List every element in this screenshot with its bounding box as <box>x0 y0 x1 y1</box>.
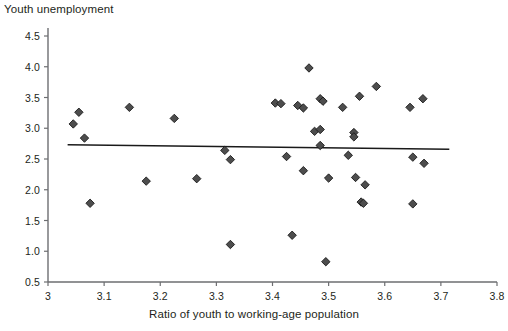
data-point <box>406 103 414 111</box>
trend-line <box>68 145 450 149</box>
scatter-plot-canvas <box>0 0 508 331</box>
x-tick-label: 3.7 <box>421 290 461 302</box>
y-tick-label: 1.0 <box>12 245 40 257</box>
x-tick-label: 3.4 <box>253 290 293 302</box>
data-point <box>372 82 380 90</box>
y-tick-label: 2.0 <box>12 184 40 196</box>
data-point <box>221 146 229 154</box>
chart-figure: Youth unemployment 0.51.01.52.02.53.03.5… <box>0 0 508 331</box>
x-tick-label: 3.5 <box>309 290 349 302</box>
data-point <box>86 199 94 207</box>
y-tick-label: 4.0 <box>12 61 40 73</box>
x-tick-label: 3.3 <box>196 290 236 302</box>
y-tick-label: 0.5 <box>12 276 40 288</box>
data-point <box>193 174 201 182</box>
data-point <box>324 174 332 182</box>
x-tick-label: 3.6 <box>365 290 405 302</box>
trend-line-segment <box>68 145 450 149</box>
data-point <box>305 64 313 72</box>
data-point <box>226 155 234 163</box>
data-points <box>69 64 428 266</box>
data-point <box>282 152 290 160</box>
axes <box>44 28 497 286</box>
data-point <box>288 231 296 239</box>
data-point <box>419 95 427 103</box>
x-tick-label: 3 <box>28 290 68 302</box>
data-point <box>277 99 285 107</box>
x-tick-label: 3.1 <box>84 290 124 302</box>
data-point <box>142 177 150 185</box>
data-point <box>299 166 307 174</box>
y-tick-label: 2.5 <box>12 153 40 165</box>
data-point <box>355 92 363 100</box>
x-tick-label: 3.8 <box>477 290 508 302</box>
data-point <box>75 108 83 116</box>
y-tick-label: 4.5 <box>12 30 40 42</box>
data-point <box>420 159 428 167</box>
y-tick-label: 1.5 <box>12 215 40 227</box>
data-point <box>338 103 346 111</box>
data-point <box>361 181 369 189</box>
data-point <box>409 153 417 161</box>
data-point <box>69 120 77 128</box>
data-point <box>80 134 88 142</box>
x-axis-title: Ratio of youth to working-age population <box>0 308 508 320</box>
data-point <box>409 200 417 208</box>
data-point <box>322 258 330 266</box>
y-tick-label: 3.5 <box>12 92 40 104</box>
data-point <box>125 103 133 111</box>
data-point <box>170 114 178 122</box>
data-point <box>226 240 234 248</box>
data-point <box>351 173 359 181</box>
y-tick-label: 3.0 <box>12 122 40 134</box>
data-point <box>344 151 352 159</box>
x-tick-label: 3.2 <box>140 290 180 302</box>
